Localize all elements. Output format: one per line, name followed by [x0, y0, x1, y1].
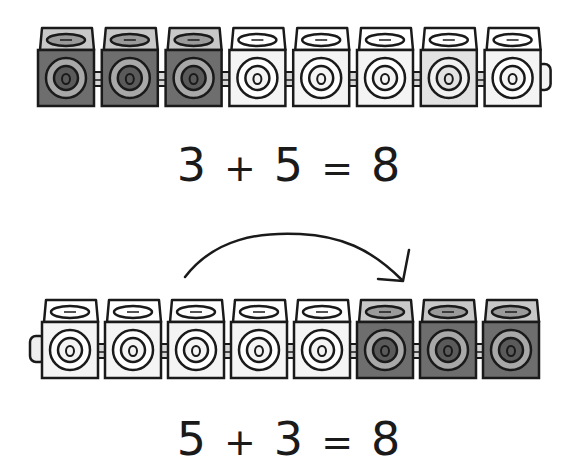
bottom-cube-train: [0, 292, 579, 392]
cube-dark: [357, 300, 413, 378]
equation-5-plus-3: 5+3=8: [0, 412, 579, 466]
cube-light: [294, 300, 350, 378]
addend-a: 5: [177, 412, 208, 466]
cube-light: [42, 300, 98, 378]
cube-dark: [420, 300, 476, 378]
cube-light: [105, 300, 161, 378]
equals-sign: =: [321, 420, 355, 464]
curved-arrow-icon: [0, 0, 579, 476]
cube-dark: [483, 300, 539, 378]
sum: 8: [371, 412, 402, 466]
cube-light: [231, 300, 287, 378]
cube-light: [168, 300, 224, 378]
cube-train-5-plus-3: [0, 292, 579, 392]
plus-sign: +: [224, 420, 258, 464]
addend-b: 3: [274, 412, 305, 466]
